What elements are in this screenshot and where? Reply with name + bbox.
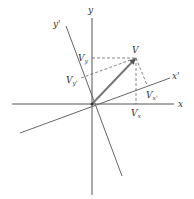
x-prime-axis (20, 78, 170, 133)
y-axis-label: y (87, 5, 94, 15)
y-prime-axis-label: y' (52, 19, 61, 29)
vy-prime-label: Vy' (66, 75, 78, 87)
x-axis-label: x (178, 99, 183, 109)
x-prime-axis-label: x' (172, 71, 180, 81)
vector-v-arrow (92, 59, 135, 104)
rotated-axes-diagram: x y x' y' V Vy Vx Vy' Vx' (0, 0, 194, 199)
vx-prime-label: Vx' (146, 90, 158, 101)
vx-prime-projection-line (136, 58, 147, 85)
origin-point (91, 103, 94, 106)
vx-label: Vx (131, 108, 142, 119)
vector-v-label: V (132, 45, 140, 55)
